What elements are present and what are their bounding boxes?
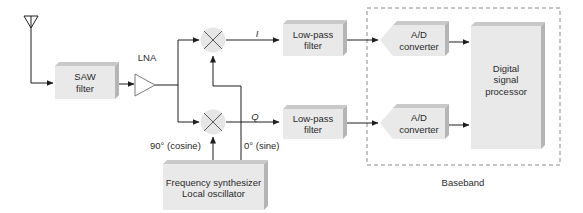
dsp-line2: signal	[485, 74, 527, 86]
lna-label: LNA	[133, 52, 161, 63]
saw-filter-label: SAWfilter	[55, 66, 115, 99]
dsp-line1: Digital	[485, 63, 527, 75]
adc-q-line2: converter	[399, 124, 439, 136]
baseband-group-label: Baseband	[440, 177, 486, 188]
lpf-q-line1: Low-pass	[293, 113, 334, 125]
lna-amplifier-icon	[135, 74, 155, 96]
synth-line1: Frequency synthesizer	[166, 177, 262, 189]
adc-i-line1: A/D	[399, 29, 439, 41]
adc-q-line1: A/D	[399, 112, 439, 124]
dsp-label: Digitalsignalprocessor	[471, 60, 541, 100]
sine-label: 0° (sine)	[244, 140, 294, 151]
lpf-i-line2: filter	[293, 40, 334, 52]
saw-filter-line1: SAW	[74, 71, 95, 83]
saw-filter-line2: filter	[74, 83, 95, 95]
i-branch-label: I	[252, 28, 262, 39]
edge-synth-mixer-i	[213, 56, 241, 160]
lpf-q-label: Low-passfilter	[283, 109, 343, 139]
synth-line2: Local oscillator	[166, 188, 262, 200]
adc-i-line2: converter	[399, 41, 439, 53]
synth-label: Frequency synthesizerLocal oscillator	[163, 166, 264, 210]
lpf-i-label: Low-passfilter	[283, 24, 343, 56]
lpf-q-line2: filter	[293, 124, 334, 136]
mixer-i-icon	[201, 28, 226, 53]
cosine-label: 90° (cosine)	[150, 140, 210, 151]
adc-i-label: A/Dconverter	[393, 25, 445, 56]
dsp-line3: processor	[485, 86, 527, 98]
adc-q-label: A/Dconverter	[393, 108, 445, 139]
mixer-q-icon	[201, 110, 226, 135]
antenna-icon	[24, 16, 38, 83]
lpf-i-line1: Low-pass	[293, 29, 334, 41]
q-branch-label: Q	[249, 111, 261, 122]
